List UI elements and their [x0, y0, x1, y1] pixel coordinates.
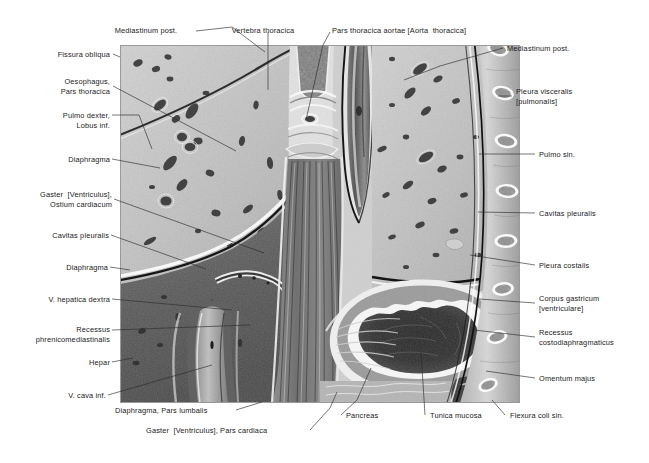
- figure-root: Mediastinum post. Vertebra thoracica Par…: [0, 0, 649, 463]
- label-diaphragma-lower: Diaphragma: [0, 263, 108, 273]
- label-oesophagus-pars-thoracica: Oesophagus, Pars thoracica: [0, 77, 110, 96]
- label-corpus-gastricum: Corpus gastricum [ventriculare]: [539, 294, 649, 313]
- label-pleura-costalis: Pleura costalis: [539, 261, 649, 271]
- label-omentum-majus: Omentum majus: [539, 374, 649, 384]
- label-fissura-obliqua: Fissura obliqua: [0, 50, 110, 60]
- label-diaphragma-upper: Diaphragma: [0, 155, 110, 165]
- label-pars-thoracica-aortae: Pars thoracica aortae [Aorta thoracica]: [332, 26, 562, 36]
- label-gaster-ostium-cardiacum: Gaster [Ventriculus], Ostium cardiacum: [0, 190, 112, 209]
- label-v-cava-inf: V. cava inf.: [0, 391, 106, 401]
- label-cavitas-pleuralis-left: Cavitas pleuralis: [0, 231, 109, 241]
- label-hepar: Hepar: [0, 358, 110, 368]
- label-pulmo-dexter-lobus-inf: Pulmo dexter, Lobus inf.: [0, 111, 110, 130]
- label-tunica-mucosa: Tunica mucosa: [430, 411, 520, 421]
- label-pulmo-sin: Pulmo sin.: [539, 150, 649, 160]
- label-recessus-costodiaphragmaticus: Recessus costodiaphragmaticus: [539, 328, 649, 347]
- label-pleura-visceralis: Pleura visceralis [pulmonalis]: [516, 87, 646, 106]
- label-v-hepatica-dextra: V. hepatica dextra: [0, 295, 110, 305]
- label-mediastinum-post-right: Mediastinum post.: [507, 44, 647, 54]
- anatomical-illustration: [120, 45, 520, 403]
- label-recessus-phrenicomediastinalis: Recessus phrenicomediastinalis: [0, 325, 110, 344]
- label-mediastinum-post-top: Mediastinum post.: [96, 26, 196, 36]
- label-diaphragma-pars-lumbalis: Diaphragma, Pars lumbalis: [115, 406, 275, 416]
- label-vertebra-thoracica: Vertebra thoracica: [208, 26, 318, 36]
- leader-fissura-obliqua: [113, 54, 120, 57]
- label-cavitas-pleuralis-right: Cavitas pleuralis: [539, 209, 649, 219]
- label-gaster-pars-cardiaca: Gaster [Ventriculus], Pars cardiaca: [146, 426, 346, 436]
- label-pancreas: Pancreas: [346, 411, 426, 421]
- section-drawing: [120, 45, 520, 403]
- label-flexura-coli-sin: Flexura coli sin.: [510, 411, 610, 421]
